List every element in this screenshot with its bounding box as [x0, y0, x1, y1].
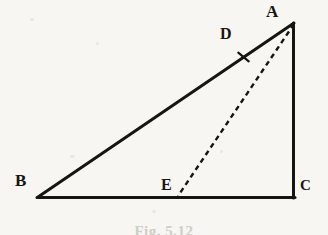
vertex-label-b: B: [15, 172, 26, 189]
geometry-figure: A B C D E Fig. 5.12: [0, 0, 328, 235]
vertex-label-e: E: [161, 177, 172, 193]
vertex-label-d: D: [220, 26, 232, 42]
triangle-diagram-canvas: [0, 0, 328, 235]
segment-ab: [38, 23, 294, 197]
vertex-label-c: C: [300, 178, 311, 193]
figure-caption: Fig. 5.12: [0, 224, 328, 235]
vertex-label-a: A: [266, 3, 278, 20]
segment-ae-dashed: [178, 24, 294, 196]
